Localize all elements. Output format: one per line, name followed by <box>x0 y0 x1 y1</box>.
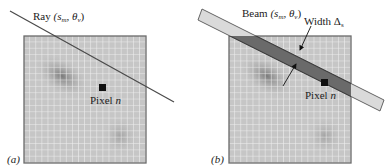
panel-a: Ray (sm, θv) Pixel n (a) <box>7 10 174 166</box>
pixel-n-marker-a <box>99 84 106 91</box>
beam-label: Beam (sm, θv) <box>242 7 301 21</box>
panel-tag-a: (a) <box>7 153 20 166</box>
figure-canvas: Ray (sm, θv) Pixel n (a) <box>0 0 387 168</box>
pixel-grid-a <box>24 36 146 163</box>
panel-b: Beam (sm, θv) Width Δs Pixel n (b) <box>198 7 384 166</box>
pixel-n-marker-b <box>321 79 328 86</box>
pixel-label-b: Pixel n <box>305 89 336 101</box>
panel-tag-b: (b) <box>211 153 224 166</box>
ray-label: Ray (sm, θv) <box>33 10 85 24</box>
width-label: Width Δs <box>304 15 344 29</box>
pixel-label-a: Pixel n <box>90 94 121 106</box>
